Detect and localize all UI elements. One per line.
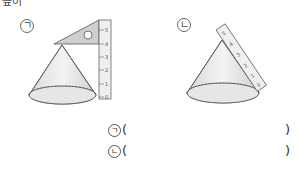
answer-label-a: ㄱ (108, 124, 121, 137)
figure-label-a: ㄱ (20, 19, 34, 33)
paren-open: ( (122, 143, 127, 158)
figure-b: 543 210 ㄴ (150, 0, 300, 110)
svg-text:5: 5 (105, 27, 108, 33)
paren-close: ) (285, 143, 290, 158)
ruler-tick: 0 (105, 94, 108, 100)
cone-with-slanted-ruler-icon: 543 210 (150, 0, 300, 110)
cone-with-set-square-icon: 0 123 45 (0, 0, 150, 110)
svg-text:1: 1 (105, 81, 108, 87)
figure-a: 0 123 45 ㄱ (0, 0, 150, 110)
figure-label-b: ㄴ (177, 18, 191, 32)
svg-text:2: 2 (105, 67, 108, 73)
svg-text:4: 4 (105, 41, 108, 47)
paren-close: ) (285, 122, 290, 137)
svg-text:3: 3 (105, 54, 108, 60)
answer-label-b: ㄴ (108, 145, 121, 158)
paren-open: ( (122, 122, 127, 137)
